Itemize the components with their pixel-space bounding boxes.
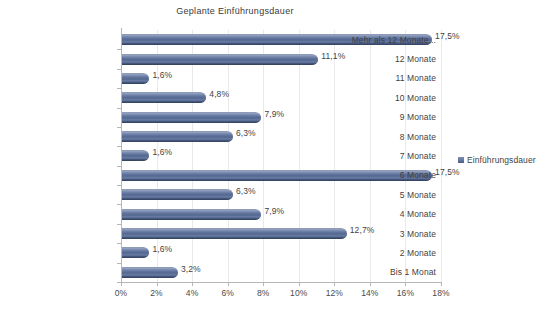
bar[interactable] (121, 267, 178, 278)
bar[interactable] (121, 189, 233, 200)
bar-value-label: 4,8% (209, 89, 229, 99)
chart-category-row: 1,6% (121, 243, 441, 262)
bar[interactable] (121, 170, 432, 181)
y-axis-category-label: 7 Monate (400, 151, 436, 161)
bar[interactable] (121, 92, 206, 103)
bar-value-label: 6,3% (236, 128, 256, 138)
bar-value-label: 1,6% (152, 70, 172, 80)
x-axis-tick-label: 12% (326, 288, 343, 298)
gridline (441, 30, 442, 282)
bar[interactable] (121, 150, 149, 161)
chart-category-row: 1,6% (121, 146, 441, 165)
x-axis-tick-label: 6% (221, 288, 234, 298)
y-axis-line (121, 28, 122, 283)
bar[interactable] (121, 73, 149, 84)
x-axis-tick-label: 0% (115, 288, 128, 298)
legend-square-icon (458, 157, 464, 163)
y-axis-category-label: 5 Monate (400, 190, 436, 200)
x-axis-line (121, 282, 442, 283)
x-axis-tick-label: 16% (397, 288, 414, 298)
x-axis-tick-label: 8% (257, 288, 270, 298)
y-axis-category-label: 12 Monate (395, 54, 436, 64)
chart-category-row: 1,6% (121, 69, 441, 88)
bar[interactable] (121, 131, 233, 142)
bar-chart: Geplante Einführungsdauer 17,5%11,1%1,6%… (0, 0, 560, 316)
y-axis-category-label: 2 Monate (400, 248, 436, 258)
bar[interactable] (121, 209, 261, 220)
bar[interactable] (121, 112, 261, 123)
plot-area: 17,5%11,1%1,6%4,8%7,9%6,3%1,6%17,5%6,3%7… (121, 30, 441, 282)
y-axis-category-label: Bis 1 Monat (390, 267, 436, 277)
x-axis-tick-label: 4% (186, 288, 199, 298)
y-axis-category-label: 4 Monate (400, 209, 436, 219)
y-axis-category-label: 8 Monate (400, 132, 436, 142)
bar-value-label: 7,9% (264, 109, 284, 119)
y-axis-category-label: 9 Monate (400, 112, 436, 122)
x-axis-tick-label: 2% (150, 288, 163, 298)
bar-value-label: 1,6% (152, 147, 172, 157)
bar-value-label: 17,5% (435, 31, 460, 41)
x-axis-tick-label: 14% (361, 288, 378, 298)
chart-category-row: 4,8% (121, 88, 441, 107)
x-axis-tick-label: 18% (432, 288, 449, 298)
bar[interactable] (121, 247, 149, 258)
bar[interactable] (121, 228, 347, 239)
chart-category-row: 17,5% (121, 166, 441, 185)
chart-category-row: 6,3% (121, 127, 441, 146)
x-axis-tick-label: 10% (290, 288, 307, 298)
chart-category-row: 7,9% (121, 108, 441, 127)
y-axis-category-label: Mehr als 12 Monate... (352, 35, 436, 45)
y-axis-category-label: 6 Monate (400, 170, 436, 180)
bar-value-label: 3,2% (181, 264, 201, 274)
chart-category-row: 7,9% (121, 204, 441, 223)
chart-category-row: 12,7% (121, 224, 441, 243)
chart-category-row: 6,3% (121, 185, 441, 204)
chart-title: Geplante Einführungsdauer (0, 6, 470, 16)
legend-item-label: Einführungsdauer (467, 155, 536, 165)
bar-value-label: 7,9% (264, 206, 284, 216)
y-axis-category-label: 10 Monate (395, 93, 436, 103)
bar-value-label: 12,7% (350, 225, 375, 235)
bar-value-label: 6,3% (236, 186, 256, 196)
bar-value-label: 1,6% (152, 244, 172, 254)
bar-value-label: 11,1% (321, 51, 345, 61)
y-axis-category-label: 11 Monate (396, 73, 436, 83)
chart-category-row: 11,1% (121, 49, 441, 68)
bar[interactable] (121, 54, 318, 65)
chart-legend: Einführungsdauer (458, 155, 536, 165)
y-axis-category-label: 3 Monate (400, 229, 436, 239)
bar-value-label: 17,5% (435, 167, 460, 177)
